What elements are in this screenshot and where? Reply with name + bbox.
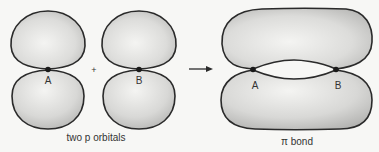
nucleus-b-label: B <box>136 75 143 86</box>
pi-bond-bottom-lobe <box>221 70 372 130</box>
p-orbital-b: B <box>102 11 176 129</box>
pi-nucleus-b-label: B <box>335 80 342 91</box>
pi-nucleus-b-dot <box>333 67 339 73</box>
pi-bond-diagram: A + B two p orbitals A B π bond <box>0 0 379 152</box>
nucleus-a-dot <box>45 67 51 73</box>
nucleus-a-label: A <box>45 75 52 86</box>
pi-nucleus-a-label: A <box>252 80 259 91</box>
caption-pi-bond: π bond <box>281 136 313 147</box>
plus-operator: + <box>91 65 96 75</box>
pi-bond-top-lobe <box>222 8 372 69</box>
orbital-b-top-lobe <box>102 11 176 69</box>
nucleus-b-dot <box>136 67 142 73</box>
p-orbital-a: A <box>11 11 85 129</box>
pi-nucleus-a-dot <box>250 67 256 73</box>
pi-bond: A B <box>221 8 372 130</box>
orbital-a-top-lobe <box>11 11 85 69</box>
reaction-arrow-icon <box>189 66 213 72</box>
caption-two-p-orbitals: two p orbitals <box>67 132 126 143</box>
